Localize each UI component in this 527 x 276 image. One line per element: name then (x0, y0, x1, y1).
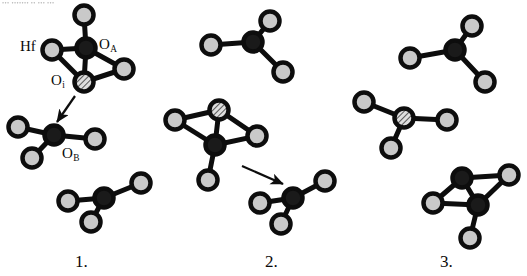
atom-p2a-o-top (261, 12, 280, 31)
atom-label-base: Hf (20, 38, 36, 54)
atom-o-circle (199, 171, 218, 190)
panel-num-1: 1. (75, 252, 88, 272)
atom-o-circle (461, 229, 480, 248)
atom-hf-circle (469, 196, 488, 215)
molecular-structure-diagram (0, 0, 527, 276)
atom-p1a-o-right (115, 60, 134, 79)
atom-o-circle (251, 194, 270, 213)
atom-p2c-hf (284, 189, 303, 208)
atom-p3a-hf (446, 41, 465, 60)
atom-o-circle (86, 130, 105, 149)
atom-o-circle (272, 215, 291, 234)
atom-p1a-oi (75, 73, 94, 92)
atom-oi-circle (395, 109, 414, 128)
atom-p2b-o-left (166, 111, 185, 130)
atom-hf-circle (77, 39, 96, 58)
atom-p1c-hf (95, 189, 114, 208)
figure-canvas: ••• ••••••• •• ••• ••• HfOAOiOB 1.2.3. (0, 0, 527, 276)
atom-p3b-o-down (382, 139, 401, 158)
atom-o-circle (43, 41, 62, 60)
atom-label-base: O (99, 36, 110, 52)
atom-o-circle (166, 111, 185, 130)
atom-p2b-o-right (248, 127, 267, 146)
atom-o-circle (274, 63, 293, 82)
atom-p3c-hf-bot (469, 196, 488, 215)
atom-p3c-o-down (461, 229, 480, 248)
atom-o-circle (500, 166, 519, 185)
atom-o-circle (9, 118, 28, 137)
atom-o-circle (82, 213, 101, 232)
atom-label-o_b: OB (62, 145, 79, 163)
atom-p3a-o-down (476, 73, 495, 92)
atom-p2c-o-down (272, 215, 291, 234)
atom-p3b-o-right (438, 111, 457, 130)
atom-p2b-hf (206, 136, 225, 155)
atom-o-circle (476, 73, 495, 92)
panel-num-2: 2. (265, 252, 278, 272)
atom-p3a-o-top (463, 17, 482, 36)
atom-p1a-o-top (75, 6, 94, 25)
atom-p3c-o-right (500, 166, 519, 185)
atom-label-base: O (62, 145, 73, 161)
atom-label-subscript: i (62, 80, 65, 90)
atom-o-circle (424, 194, 443, 213)
atom-p1b-o-right (86, 130, 105, 149)
atom-p3a-o-left (401, 49, 420, 68)
atom-label-o_i: Oi (51, 72, 65, 90)
atom-oi-circle (210, 101, 229, 120)
atom-p2b-o-down (199, 171, 218, 190)
arrow-panel-1 (57, 96, 75, 122)
atom-hf-circle (45, 126, 64, 145)
atom-o-circle (115, 60, 134, 79)
atom-oi-circle (75, 73, 94, 92)
atom-p1b-o-left (9, 118, 28, 137)
atom-o-circle (248, 127, 267, 146)
atom-p1c-o-upper (132, 174, 151, 193)
atom-p3c-hf-top (453, 169, 472, 188)
atom-label-subscript: A (110, 44, 117, 54)
atom-o-circle (202, 36, 221, 55)
atom-hf-circle (453, 169, 472, 188)
atom-hf-circle (446, 41, 465, 60)
atom-hf-circle (206, 136, 225, 155)
atom-o-circle (316, 172, 335, 191)
atom-o-circle (355, 93, 374, 112)
atom-p3b-o-upper (355, 93, 374, 112)
atom-o-circle (59, 192, 78, 211)
atom-p2b-oi (210, 101, 229, 120)
atom-hf-circle (95, 189, 114, 208)
atom-label-o_a: OA (99, 36, 117, 54)
atom-p1b-hf (45, 126, 64, 145)
atom-o-circle (75, 6, 94, 25)
atom-p3b-oi (395, 109, 414, 128)
atom-p1a-hf-center (77, 39, 96, 58)
atom-o-circle (132, 174, 151, 193)
atom-o-circle (463, 17, 482, 36)
atom-hf-circle (284, 189, 303, 208)
atom-o-circle (401, 49, 420, 68)
atom-o-circle (438, 111, 457, 130)
atom-label-base: O (51, 72, 62, 88)
arrow-panel-2 (242, 166, 283, 184)
atom-o-circle (23, 149, 42, 168)
atom-p1b-o-down (23, 149, 42, 168)
atom-p2c-o-upper (316, 172, 335, 191)
atom-p2a-o-left (202, 36, 221, 55)
atom-p1c-o-down (82, 213, 101, 232)
atom-o-circle (382, 139, 401, 158)
atom-label-subscript: B (73, 153, 80, 163)
atom-layer (9, 6, 519, 248)
atom-p2c-o-left (251, 194, 270, 213)
atom-hf-circle (244, 33, 263, 52)
atom-p1a-o-left (43, 41, 62, 60)
atom-label-hf: Hf (20, 38, 36, 55)
atom-p2a-o-down (274, 63, 293, 82)
panel-num-3: 3. (440, 252, 453, 272)
atom-p2a-hf (244, 33, 263, 52)
atom-p1c-o-left (59, 192, 78, 211)
atom-o-circle (261, 12, 280, 31)
atom-p3c-o-left (424, 194, 443, 213)
